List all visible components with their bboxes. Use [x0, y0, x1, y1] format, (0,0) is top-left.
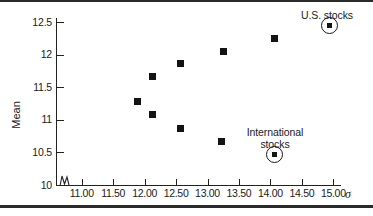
x-tick-label: 15.00	[310, 188, 356, 199]
y-tick-label: 10.5	[6, 147, 52, 158]
data-point-marker	[149, 73, 156, 80]
annotation-international-line1: International	[247, 126, 304, 138]
y-tick-label: 11	[6, 114, 52, 125]
x-tick-mark	[270, 179, 271, 185]
y-tick-label: 10	[6, 180, 52, 191]
y-tick-mark	[57, 152, 64, 153]
x-tick-mark	[302, 179, 303, 185]
y-tick-label: 12	[6, 49, 52, 60]
x-tick-mark	[113, 179, 114, 185]
data-point-marker	[134, 98, 141, 105]
data-point-marker	[220, 48, 227, 55]
x-tick-mark	[208, 179, 209, 185]
x-axis-line	[56, 185, 341, 186]
x-tick-mark	[239, 179, 240, 185]
y-tick-label: 12.5	[6, 17, 52, 28]
x-tick-mark	[145, 179, 146, 185]
x-tick-mark	[82, 179, 83, 185]
y-tick-mark	[57, 120, 64, 121]
scatter-plot-figure: Mean σ 12.51211.51110.510 11.0011.5012.0…	[0, 0, 373, 216]
y-axis-line	[56, 18, 57, 186]
y-tick-mark	[57, 22, 64, 23]
data-point-marker	[271, 35, 278, 42]
annotation-us-stocks: U.S. stocks	[284, 9, 370, 21]
top-divider-rule	[0, 0, 373, 2]
x-tick-mark	[176, 179, 177, 185]
bottom-divider-rule	[0, 205, 373, 208]
data-point-marker	[218, 138, 225, 145]
y-tick-mark	[57, 55, 64, 56]
data-point-marker	[149, 111, 156, 118]
y-tick-mark	[57, 185, 64, 186]
annotation-international-stocks: International stocks	[232, 126, 318, 150]
x-tick-mark	[333, 179, 334, 185]
y-tick-mark	[57, 87, 64, 88]
data-point-marker	[327, 23, 332, 28]
annotation-international-line2: stocks	[260, 138, 289, 150]
data-point-marker	[177, 125, 184, 132]
y-tick-label: 11.5	[6, 82, 52, 93]
data-point-marker	[272, 152, 277, 157]
data-point-marker	[177, 60, 184, 67]
